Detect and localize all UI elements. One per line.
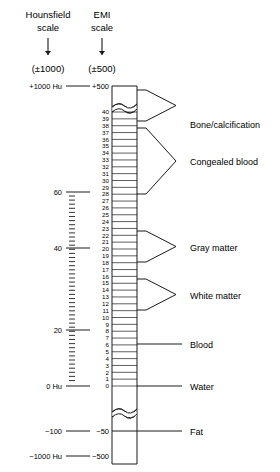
scale-comparison-diagram: HounsfieldscaleEMIscale(±1000)(±500)4039… bbox=[0, 0, 280, 472]
emi-major-tick-label: −50 bbox=[96, 427, 109, 436]
annotation-label: Gray matter bbox=[190, 243, 238, 253]
annotation-label: Bone/calcification bbox=[190, 120, 260, 130]
emi-header-arrowhead bbox=[99, 51, 105, 55]
annotation-bracket-tip bbox=[146, 90, 176, 121]
hounsfield-emi-scale-figure: HounsfieldscaleEMIscale(±1000)(±500)4039… bbox=[0, 0, 280, 472]
hounsfield-header-line1: Hounsfield bbox=[26, 9, 71, 20]
emi-major-tick-label: −500 bbox=[92, 452, 109, 461]
hounsfield-tick-label: 40 bbox=[54, 244, 62, 253]
annotation-label: Blood bbox=[190, 340, 213, 350]
annotation-label: Water bbox=[190, 382, 214, 392]
emi-major-tick-label: +500 bbox=[92, 82, 109, 91]
annotation-label: White matter bbox=[190, 291, 241, 301]
hounsfield-header-line2: scale bbox=[37, 22, 59, 33]
hounsfield-tick-label: −1000 Hu bbox=[29, 452, 62, 461]
emi-tick-label: 0 bbox=[106, 382, 110, 389]
hounsfield-tick-label: 0 Hu bbox=[46, 382, 62, 391]
annotation-bracket-tip bbox=[146, 231, 176, 262]
emi-range-label: (±500) bbox=[88, 63, 115, 74]
hounsfield-tick-label: 20 bbox=[54, 326, 62, 335]
annotation-bracket-tip bbox=[146, 279, 176, 310]
hounsfield-tick-label: −100 bbox=[45, 427, 62, 436]
annotation-bracket-tip bbox=[146, 128, 176, 194]
hounsfield-tick-label: +1000 Hu bbox=[29, 82, 62, 91]
annotation-label: Congealed blood bbox=[190, 157, 258, 167]
annotation-label: Fat bbox=[190, 427, 204, 437]
hounsfield-range-label: (±1000) bbox=[32, 63, 65, 74]
hounsfield-tick-label: 60 bbox=[54, 188, 62, 197]
emi-header-line2: scale bbox=[91, 22, 113, 33]
hounsfield-header-arrowhead bbox=[45, 51, 51, 55]
emi-header-line1: EMI bbox=[94, 9, 111, 20]
